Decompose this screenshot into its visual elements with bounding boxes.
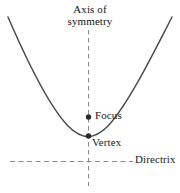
axis-of-symmetry-label: Axis of symmetry <box>0 4 180 27</box>
focus-point <box>86 114 91 119</box>
axis-of-symmetry-label-line2: symmetry <box>0 16 180 28</box>
directrix-label: Directrix <box>135 154 176 166</box>
axis-of-symmetry-label-line1: Axis of <box>73 3 106 15</box>
vertex-point <box>86 133 91 138</box>
vertex-label: Vertex <box>92 137 121 149</box>
focus-label: Focus <box>95 110 122 122</box>
parabola-diagram: Axis of symmetry Focus Vertex Directrix <box>0 0 180 193</box>
